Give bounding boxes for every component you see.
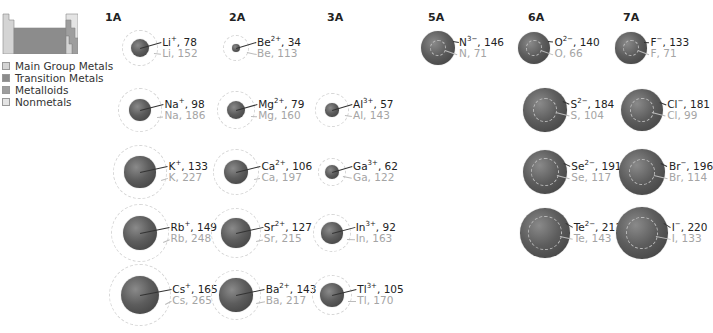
leader-line [347, 239, 355, 240]
ion-symbol: Se [571, 160, 584, 172]
ion-symbol: O [554, 36, 562, 48]
atom-symbol: Ca [261, 171, 275, 183]
separator: , [284, 98, 291, 110]
ion-radius-label: Tl3+, 105 [357, 282, 403, 295]
ion-symbol: In [356, 221, 366, 233]
atom-radius-label: K, 227 [169, 171, 203, 183]
ion-radius-label: K+, 133 [169, 159, 209, 172]
atom-radius-value: 152 [178, 47, 198, 59]
ion-charge: 2− [577, 97, 587, 105]
atom-radius-value: 160 [281, 109, 301, 121]
separator: , [181, 160, 188, 172]
separator: , [595, 221, 602, 233]
atom-radius-value: 122 [374, 171, 394, 183]
ion-radius-label: I−, 220 [672, 220, 708, 233]
legend-swatch-icon [2, 98, 10, 106]
separator: , [577, 109, 584, 121]
atom-radius-label: Cs, 265 [172, 294, 212, 306]
separator: , [281, 36, 288, 48]
atom-radius-label: O, 66 [554, 47, 582, 59]
ion-symbol: Al [353, 98, 363, 110]
atom-radius-label: Se, 117 [571, 171, 611, 183]
atom-symbol: Sr [264, 232, 275, 244]
ion-radius-label: Rb+, 149 [170, 220, 217, 233]
legend-item: Transition Metals [2, 72, 113, 84]
ion-charge: 2+ [274, 97, 284, 105]
atom-symbol: Al [353, 109, 363, 121]
atom-radius-label: In, 163 [356, 232, 393, 244]
ion-radius-label: O2−, 140 [554, 35, 599, 48]
atom-radius-label: Na, 186 [164, 109, 205, 121]
ion-radius-label: Te2−, 211 [574, 220, 622, 233]
group-header: 3A [327, 11, 343, 24]
legend-label: Nonmetals [15, 96, 72, 108]
ion-radius-value: 79 [291, 98, 304, 110]
group-header: 1A [105, 11, 121, 24]
ion-radius-value: 106 [292, 160, 312, 172]
atom-symbol: N [459, 47, 467, 59]
ion-radius-label: S2−, 184 [571, 97, 615, 110]
atom-radius-label: Rb, 248 [170, 232, 211, 244]
ion-radius-value: 127 [292, 221, 312, 233]
atom-radius-label: Sr, 215 [264, 232, 302, 244]
ion-charge: 2− [585, 220, 595, 228]
separator: , [477, 36, 484, 48]
separator: , [686, 160, 693, 172]
atom-radius-value: 104 [584, 109, 604, 121]
atom-radius-value: 163 [372, 232, 392, 244]
legend-item: Nonmetals [2, 96, 113, 108]
atom-symbol: Ba [266, 294, 280, 306]
ion-radius-value: 98 [191, 98, 204, 110]
atom-radius-value: 248 [191, 232, 211, 244]
ion-radius-value: 92 [383, 221, 396, 233]
separator: , [377, 283, 384, 295]
ion-symbol: Ca [261, 160, 275, 172]
atom-symbol: Se [571, 171, 584, 183]
atom-radius-label: Ba, 217 [266, 294, 306, 306]
atom-radius-value: 99 [684, 109, 697, 121]
group-header: 2A [229, 11, 245, 24]
atom-radius-value: 265 [192, 294, 212, 306]
atom-radius-value: 71 [663, 47, 676, 59]
atom-symbol: Br [669, 171, 681, 183]
legend-item: Main Group Metals [2, 60, 113, 72]
ion-symbol: Mg [258, 98, 274, 110]
atom-radius-value: 186 [185, 109, 205, 121]
ion-radius-value: 140 [580, 36, 600, 48]
atom-symbol: Cl [667, 109, 677, 121]
ion-symbol: Sr [264, 221, 275, 233]
ion-charge: 3+ [367, 282, 377, 290]
ion-radius-value: 146 [484, 36, 504, 48]
atom-radius-value: 215 [282, 232, 302, 244]
atom-radius-label: Ca, 197 [261, 171, 302, 183]
ion-charge: 2+ [271, 35, 281, 43]
ion-symbol: Li [162, 36, 171, 48]
ion-radius-label: In3+, 92 [356, 220, 396, 233]
ion-radius-label: Br−, 196 [669, 159, 713, 172]
atom-radius-label: I, 133 [672, 232, 702, 244]
ion-symbol: Te [574, 221, 585, 233]
ion-radius-value: 196 [693, 160, 713, 172]
atom-radius-value: 197 [282, 171, 302, 183]
periodic-table-thumbnail-icon [2, 8, 78, 54]
ion-charge: 2+ [279, 282, 289, 290]
atom-radius-label: Be, 113 [257, 47, 297, 59]
atom-radius-label: Ga, 122 [353, 171, 394, 183]
ion-radius-label: Se2−, 191 [571, 159, 621, 172]
ion-symbol: Cs [172, 283, 185, 295]
atom-symbol: Te [574, 232, 585, 244]
legend-swatch-icon [2, 74, 10, 82]
ion-radius-value: 78 [183, 36, 196, 48]
atom-radius-label: F, 71 [651, 47, 677, 59]
atom-radius-label: Br, 114 [669, 171, 707, 183]
separator: , [185, 294, 192, 306]
ion-radius-label: Ba2+, 143 [266, 282, 317, 295]
ion-radius-label: F−, 133 [651, 35, 690, 48]
atom-symbol: Mg [258, 109, 274, 121]
separator: , [378, 160, 385, 172]
ion-radius-label: Al3+, 57 [353, 97, 394, 110]
neutral-atom-outline [626, 217, 657, 248]
legend-item: Metalloids [2, 84, 113, 96]
atom-radius-value: 170 [373, 294, 393, 306]
ion-radius-value: 133 [188, 160, 208, 172]
